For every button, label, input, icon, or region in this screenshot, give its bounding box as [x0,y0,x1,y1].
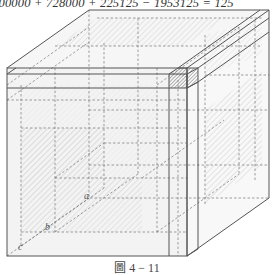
label-a: a [84,190,89,201]
cube-decomposition-diagram: a b c [0,0,274,275]
label-c: c [18,241,23,252]
label-b: b [45,221,50,232]
figure-caption: 圖 4 − 11 [0,258,274,275]
